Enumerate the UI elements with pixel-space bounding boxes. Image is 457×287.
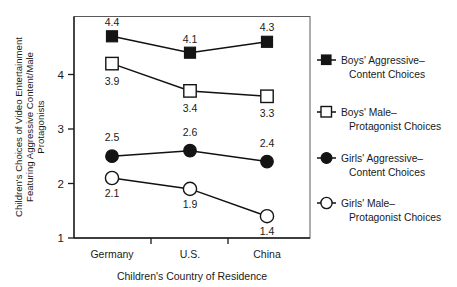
legend-1-marker-open-square-icon <box>321 107 332 118</box>
series-2-value-china: 2.4 <box>260 137 275 149</box>
legend-0-label-line-2: Content Choices <box>349 69 425 80</box>
series-0-point-germany <box>107 31 118 42</box>
y-tick-label-2: 2 <box>58 178 64 190</box>
legend-3-marker-open-circle-icon <box>321 197 332 208</box>
y-axis-title-line-1: Children's Choices of Video Entertainmen… <box>13 37 24 217</box>
legend-item-girls-male-protagonist[interactable]: Girls' Male– Protagonist Choices <box>317 197 441 222</box>
y-axis-title: Children's Choices of Video Entertainmen… <box>13 37 46 217</box>
y-axis-title-line-3: Protagonists <box>35 100 46 154</box>
series-3-point-germany <box>105 171 118 184</box>
legend-0-marker-filled-square-icon <box>322 55 332 65</box>
x-category-label-germany: Germany <box>90 248 134 260</box>
series-3-value-china: 1.4 <box>260 225 275 237</box>
series-3-value-germany: 2.1 <box>105 187 120 199</box>
series-girls-aggressive-content: 2.5 2.6 2.4 <box>105 126 275 168</box>
x-category-label-china: China <box>253 248 281 260</box>
x-axis-title: Children's Country of Residence <box>117 270 267 282</box>
series-1-value-germany: 3.9 <box>105 75 120 87</box>
legend-1-label-line-1: Boys' Male– <box>341 107 397 118</box>
series-3-point-us <box>183 182 196 195</box>
series-1-point-us <box>184 85 196 97</box>
series-0-point-china <box>262 36 273 47</box>
legend-item-boys-aggressive-content[interactable]: Boys' Aggressive– Content Choices <box>317 55 425 80</box>
series-2-point-china <box>261 155 274 168</box>
legend-1-label-line-2: Protagonist Choices <box>349 121 441 132</box>
series-3-point-china <box>260 210 273 223</box>
series-2-point-us <box>184 144 197 157</box>
legend: Boys' Aggressive– Content Choices Boys' … <box>317 55 441 223</box>
series-1-point-germany <box>106 57 118 69</box>
series-1-point-china <box>261 90 273 102</box>
series-0-value-germany: 4.4 <box>105 16 120 28</box>
y-axis-title-line-2: Featuring Aggressive Content/Male <box>24 52 35 202</box>
y-tick-label-3: 3 <box>58 123 64 135</box>
series-2-value-germany: 2.5 <box>105 131 120 143</box>
legend-0-label-line-1: Boys' Aggressive– <box>341 55 425 66</box>
series-girls-male-protagonist: 2.1 1.9 1.4 <box>105 171 275 237</box>
series-0-value-china: 4.3 <box>260 21 275 33</box>
legend-item-boys-male-protagonist[interactable]: Boys' Male– Protagonist Choices <box>317 107 441 132</box>
series-boys-male-protagonist: 3.9 3.4 3.3 <box>105 57 275 119</box>
series-2-value-us: 2.6 <box>183 126 198 138</box>
series-boys-aggressive-content: 4.4 4.1 4.3 <box>105 16 275 58</box>
series-3-value-us: 1.9 <box>183 198 198 210</box>
legend-item-girls-aggressive-content[interactable]: Girls' Aggressive– Content Choices <box>317 153 425 178</box>
legend-3-label-line-2: Protagonist Choices <box>349 212 441 223</box>
y-tick-label-4: 4 <box>58 69 65 81</box>
series-1-value-us: 3.4 <box>183 102 198 114</box>
legend-2-label-line-2: Content Choices <box>349 167 425 178</box>
x-category-label-us: U.S. <box>180 248 200 260</box>
line-chart-figure: 1 2 3 4 Germany U.S. China Children's Co… <box>0 0 457 287</box>
chart-svg: 1 2 3 4 Germany U.S. China Children's Co… <box>0 0 457 287</box>
legend-3-label-line-1: Girls' Male– <box>341 198 395 209</box>
legend-2-label-line-1: Girls' Aggressive– <box>341 153 423 164</box>
series-0-value-us: 4.1 <box>183 33 198 45</box>
series-0-point-us <box>185 47 196 58</box>
legend-2-marker-filled-circle-icon <box>321 153 332 164</box>
series-2-point-germany <box>106 150 119 163</box>
y-tick-label-1: 1 <box>58 232 64 244</box>
series-1-value-china: 3.3 <box>260 107 275 119</box>
